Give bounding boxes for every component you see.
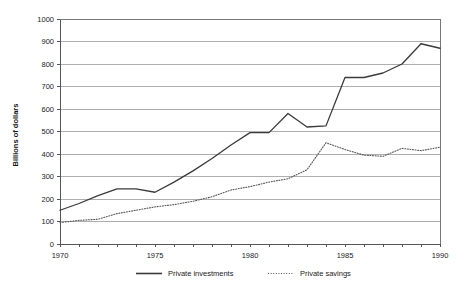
y-tick-label: 900: [41, 37, 54, 46]
x-tick-label: 1980: [242, 251, 259, 260]
y-tick-label: 400: [41, 150, 54, 159]
line-chart: 01002003004005006007008009001000 1970197…: [0, 0, 470, 298]
legend-label: Private savings: [300, 269, 351, 278]
series-line-private-savings: [60, 143, 440, 223]
legend-label: Private investments: [168, 269, 234, 278]
y-tick-label: 200: [41, 195, 54, 204]
y-tick-label: 700: [41, 82, 54, 91]
y-tick-label: 600: [41, 105, 54, 114]
y-tick-label: 1000: [37, 15, 54, 24]
x-axis-ticks: 19701975198019851990: [52, 244, 449, 260]
y-axis-ticks: 01002003004005006007008009001000: [37, 15, 60, 249]
y-tick-label: 0: [50, 240, 54, 249]
data-series: [60, 44, 440, 223]
y-tick-label: 800: [41, 60, 54, 69]
chart-legend: Private investmentsPrivate savings: [136, 269, 351, 278]
x-tick-label: 1975: [147, 251, 164, 260]
gridlines: [60, 19, 440, 222]
x-tick-label: 1985: [337, 251, 354, 260]
series-line-private-investments: [60, 44, 440, 211]
y-tick-label: 300: [41, 172, 54, 181]
y-tick-label: 500: [41, 127, 54, 136]
x-tick-label: 1970: [52, 251, 69, 260]
y-tick-label: 100: [41, 217, 54, 226]
chart-container: 01002003004005006007008009001000 1970197…: [0, 0, 470, 298]
x-tick-label: 1990: [432, 251, 449, 260]
y-axis-title-text: Billions of dollars: [11, 104, 20, 167]
y-axis-title: Billions of dollars: [11, 104, 20, 167]
